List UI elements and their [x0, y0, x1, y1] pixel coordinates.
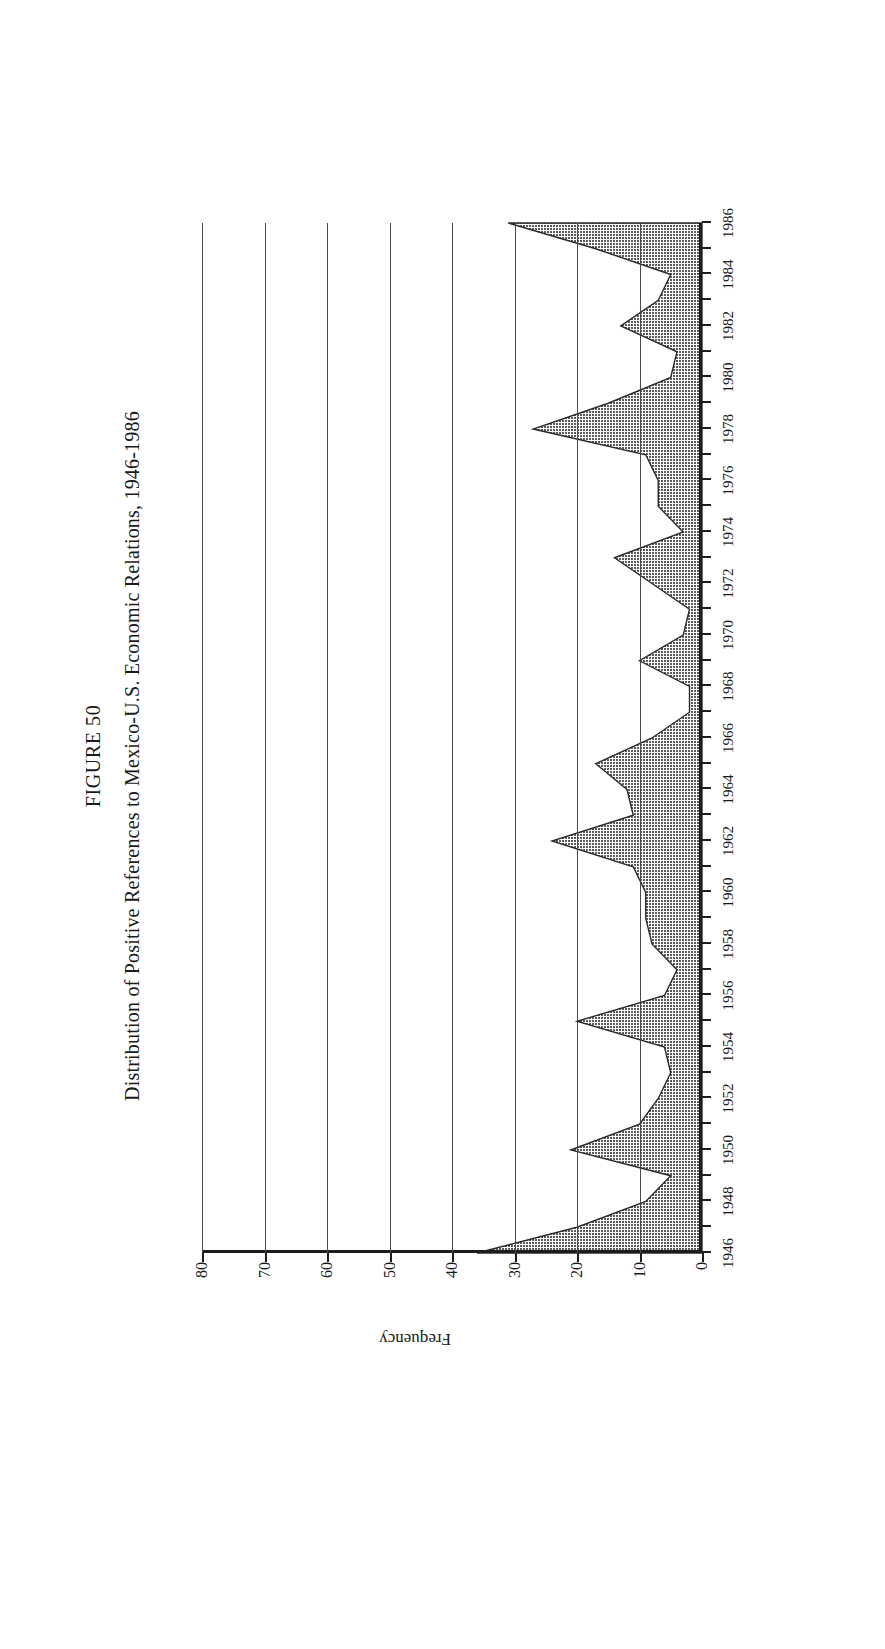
- y-tick-mark: [640, 1253, 642, 1262]
- x-tick-label: 1982: [721, 311, 736, 341]
- x-tick-mark: [702, 685, 711, 687]
- x-tick-label: 1950: [721, 1135, 736, 1165]
- x-tick-mark: [702, 865, 711, 867]
- x-tick-mark: [702, 1251, 711, 1253]
- gridline: [265, 223, 266, 1253]
- x-tick-mark: [702, 1071, 711, 1073]
- x-tick-label: 1948: [721, 1187, 736, 1217]
- x-tick-label: 1984: [721, 260, 736, 290]
- x-tick-mark: [702, 530, 711, 532]
- x-tick-mark: [702, 839, 711, 841]
- rotated-figure-wrapper: FIGURE 50 Distribution of Positive Refer…: [52, 141, 800, 1371]
- x-tick-mark: [702, 504, 711, 506]
- y-axis-label: Frequency: [379, 1329, 451, 1349]
- x-tick-label: 1956: [721, 981, 736, 1011]
- x-tick-mark: [702, 1148, 711, 1150]
- x-tick-mark: [702, 1097, 711, 1099]
- x-tick-mark: [702, 221, 711, 223]
- x-tick-mark: [702, 453, 711, 455]
- gridline: [390, 223, 391, 1253]
- x-tick-label: 1978: [721, 414, 736, 444]
- x-tick-label: 1960: [721, 878, 736, 908]
- x-tick-mark: [702, 1122, 711, 1124]
- y-tick-mark: [390, 1253, 392, 1262]
- x-tick-label: 1954: [721, 1032, 736, 1062]
- y-tick-label: 20: [569, 1262, 585, 1278]
- x-tick-mark: [702, 813, 711, 815]
- x-tick-mark: [702, 659, 711, 661]
- x-tick-mark: [702, 916, 711, 918]
- x-tick-mark: [702, 582, 711, 584]
- y-tick-mark: [577, 1253, 579, 1262]
- y-tick-label: 70: [257, 1262, 273, 1278]
- x-tick-mark: [702, 298, 711, 300]
- x-tick-mark: [702, 788, 711, 790]
- y-tick-label: 40: [444, 1262, 460, 1278]
- x-tick-mark: [702, 1045, 711, 1047]
- x-tick-mark: [702, 324, 711, 326]
- y-tick-label: 10: [632, 1262, 648, 1278]
- x-tick-mark: [702, 1225, 711, 1227]
- x-tick-label: 1964: [721, 775, 736, 805]
- x-tick-mark: [702, 247, 711, 249]
- x-tick-mark: [702, 762, 711, 764]
- y-tick-mark: [265, 1253, 267, 1262]
- gridline: [452, 223, 453, 1253]
- y-tick-label: 50: [382, 1262, 398, 1278]
- figure-header: FIGURE 50 Distribution of Positive Refer…: [52, 141, 144, 1371]
- x-tick-mark: [702, 479, 711, 481]
- x-tick-label: 1976: [721, 466, 736, 496]
- x-tick-label: 1952: [721, 1084, 736, 1114]
- x-tick-mark: [702, 607, 711, 609]
- y-tick-label: 0: [694, 1262, 710, 1270]
- x-tick-label: 1958: [721, 929, 736, 959]
- x-tick-mark: [702, 401, 711, 403]
- y-tick-label: 80: [194, 1262, 210, 1278]
- x-tick-mark: [702, 968, 711, 970]
- x-tick-mark: [702, 1174, 711, 1176]
- x-tick-label: 1962: [721, 826, 736, 856]
- x-tick-label: 1966: [721, 723, 736, 753]
- y-tick-mark: [327, 1253, 329, 1262]
- x-tick-label: 1968: [721, 672, 736, 702]
- plot-container: Frequency 010203040506070801946194819501…: [196, 141, 756, 1371]
- y-tick-mark: [452, 1253, 454, 1262]
- x-tick-mark: [702, 1019, 711, 1021]
- x-tick-label: 1986: [721, 208, 736, 238]
- x-tick-mark: [702, 891, 711, 893]
- gridline: [515, 223, 516, 1253]
- figure-number: FIGURE 50: [82, 141, 105, 1371]
- x-tick-mark: [702, 710, 711, 712]
- gridline: [640, 223, 641, 1253]
- x-tick-mark: [702, 1200, 711, 1202]
- gridline: [327, 223, 328, 1253]
- x-tick-mark: [702, 633, 711, 635]
- x-tick-mark: [702, 942, 711, 944]
- x-tick-mark: [702, 350, 711, 352]
- x-tick-mark: [702, 427, 711, 429]
- plot-area: 0102030405060708019461948195019521954195…: [202, 223, 702, 1253]
- gridline: [202, 223, 203, 1253]
- x-tick-label: 1972: [721, 569, 736, 599]
- y-tick-mark: [202, 1253, 204, 1262]
- x-tick-label: 1970: [721, 620, 736, 650]
- x-tick-label: 1946: [721, 1238, 736, 1268]
- x-axis-line: [699, 223, 702, 1253]
- x-tick-mark: [702, 994, 711, 996]
- y-tick-mark: [702, 1253, 704, 1262]
- y-tick-label: 30: [507, 1262, 523, 1278]
- x-tick-mark: [702, 376, 711, 378]
- x-tick-mark: [702, 736, 711, 738]
- x-tick-mark: [702, 273, 711, 275]
- x-tick-label: 1974: [721, 517, 736, 547]
- x-tick-mark: [702, 556, 711, 558]
- x-tick-label: 1980: [721, 363, 736, 393]
- y-tick-mark: [515, 1253, 517, 1262]
- y-tick-label: 60: [319, 1262, 335, 1278]
- gridline: [577, 223, 578, 1253]
- figure-canvas: FIGURE 50 Distribution of Positive Refer…: [52, 141, 800, 1371]
- figure-title: Distribution of Positive References to M…: [121, 141, 144, 1371]
